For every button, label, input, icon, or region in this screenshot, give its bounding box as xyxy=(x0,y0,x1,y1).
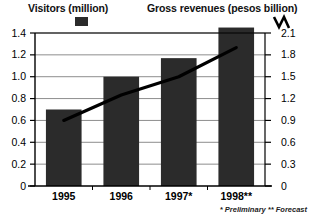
right-axis-label-0.9: 0.9 xyxy=(281,114,305,126)
left-axis-label-1.0: 1.0 xyxy=(4,70,26,82)
left-axis-label-0.8: 0.8 xyxy=(4,92,26,104)
right-axis-label-0: 0 xyxy=(281,180,305,192)
left-axis-label-1.4: 1.4 xyxy=(4,27,26,39)
right-axis-label-2.1: 2.1 xyxy=(281,27,305,39)
bar-1996 xyxy=(103,77,139,186)
legend-visitors-swatch-icon xyxy=(75,17,88,26)
left-axis-label-0.6: 0.6 xyxy=(4,114,26,126)
footnote-text: * Preliminary ** Forecast xyxy=(220,205,307,214)
left-axis-label-0.4: 0.4 xyxy=(4,136,26,148)
left-axis-label-1.2: 1.2 xyxy=(4,48,26,60)
x-axis-label-1995: 1995 xyxy=(35,190,93,202)
revenue-line xyxy=(64,48,237,121)
bar-1998** xyxy=(218,28,254,186)
right-axis-label-1.8: 1.8 xyxy=(281,48,305,60)
right-axis-label-1.2: 1.2 xyxy=(281,92,305,104)
left-axis-label-0.2: 0.2 xyxy=(4,158,26,170)
chart-container: Visitors (million) Gross revenues (pesos… xyxy=(0,0,311,220)
x-axis-label-1997s: 1997* xyxy=(150,190,208,202)
legend-revenue-title: Gross revenues (pesos billion) xyxy=(147,2,297,14)
right-axis-label-1.5: 1.5 xyxy=(281,70,305,82)
right-axis-label-0.6: 0.6 xyxy=(281,136,305,148)
left-axis-label-0: 0 xyxy=(4,180,26,192)
right-axis-label-0.3: 0.3 xyxy=(281,158,305,170)
x-axis-label-1996: 1996 xyxy=(93,190,151,202)
x-axis-label-1998ss: 1998** xyxy=(208,190,266,202)
plot-area xyxy=(0,0,311,220)
legend-visitors-title: Visitors (million) xyxy=(28,2,108,14)
